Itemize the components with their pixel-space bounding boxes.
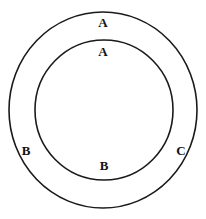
label-a-annulus-top: A	[98, 16, 107, 29]
label-c-annulus-right: C	[176, 144, 185, 157]
label-a-inner-top: A	[98, 45, 107, 58]
label-b-inner-bottom: B	[100, 159, 109, 172]
label-b-annulus-left: B	[22, 144, 31, 157]
concentric-circles-graphic	[0, 0, 206, 219]
diagram-canvas: A A B B C	[0, 0, 206, 219]
diagram-background	[0, 0, 206, 219]
